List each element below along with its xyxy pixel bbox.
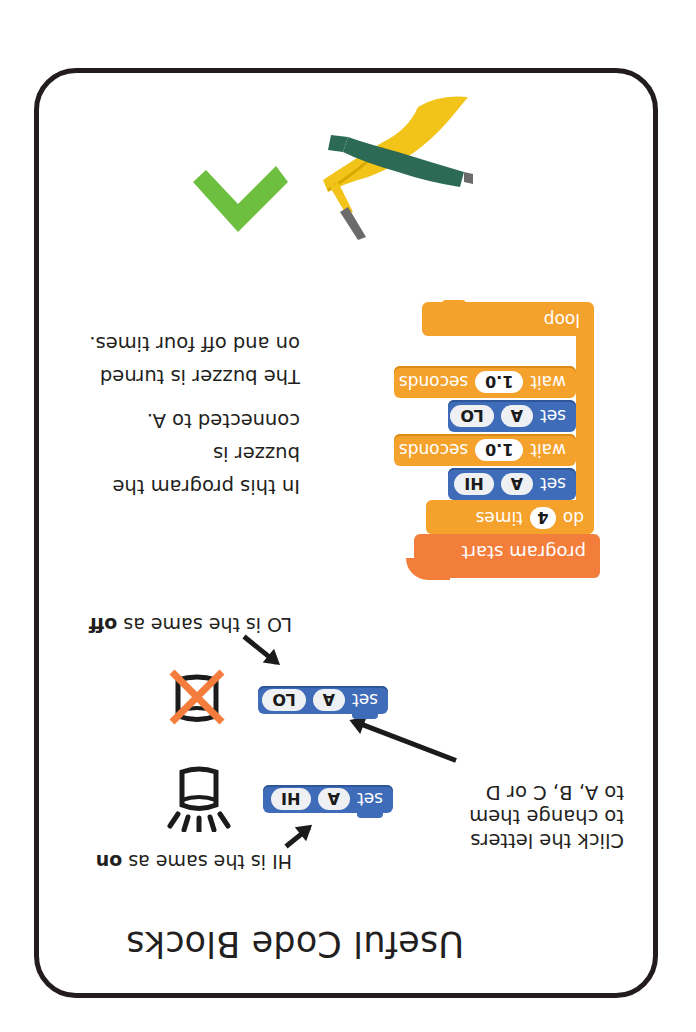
description-line-3: connected to A. [89,408,300,432]
program-step-wait-1[interactable]: wait 1.0 seconds [394,434,576,466]
pin-selector[interactable]: A [501,473,533,495]
hi-note: HI is the same as on [96,850,292,874]
block-notch [352,711,378,719]
program-stack: program start do 4 times loop set A HI w… [300,280,600,580]
instruction-line-1: Click the letters [469,828,624,852]
program-step-wait-2[interactable]: wait 1.0 seconds [394,366,576,398]
loop-label: loop [544,310,580,330]
description-line-1: In this program the [89,474,300,498]
repeat-suffix: times [476,508,523,528]
set-hi-block[interactable]: set A HI [263,785,393,813]
pin-selector[interactable]: A [313,689,345,711]
description-line-4: The buzzer is turned [89,364,300,388]
state-selector[interactable]: LO [450,405,493,427]
click-instructions: Click the letters to change them to A, B… [469,780,624,852]
loop-footer-tab [442,300,466,306]
block-notch [357,810,383,818]
set-keyword: set [352,690,378,710]
program-step-set-hi[interactable]: set A HI [448,468,576,500]
wait-value[interactable]: 1.0 [475,439,523,461]
state-selector[interactable]: HI [454,473,493,495]
hi-note-text: HI is the same as [122,851,292,873]
program-description: In this program the buzzer is connected … [89,331,300,498]
set-lo-block[interactable]: set A LO [258,686,388,714]
lo-note-emphasis: off [89,614,117,636]
pin-selector[interactable]: A [318,788,350,810]
repeat-prefix: do [563,508,584,528]
card-stage: Useful Code Blocks HI is the same as on … [0,0,696,1032]
state-selector[interactable]: LO [262,689,305,711]
description-line-5: on and off four times. [89,331,300,355]
buzzer-off-icon [166,668,228,726]
set-keyword: set [540,474,566,494]
pin-selector[interactable]: A [501,405,533,427]
wait-keyword: wait [530,372,566,392]
wait-value[interactable]: 1.0 [475,371,523,393]
crocodile-clip-illustration [188,92,478,242]
set-keyword: set [540,406,566,426]
hat-curve [406,558,450,580]
state-selector[interactable]: HI [271,788,311,810]
buzzer-on-icon [160,760,238,832]
hi-note-emphasis: on [96,851,123,873]
program-start-label: program start [462,543,586,564]
description-line-2: buzzer is [89,441,300,465]
instruction-line-2: to change them [469,804,624,828]
repeat-block[interactable]: do 4 times [426,502,594,534]
wait-unit: seconds [399,440,469,460]
instruction-line-3: to A, B, C or D [469,780,624,804]
set-keyword: set [357,789,383,809]
wait-keyword: wait [530,440,566,460]
lo-note-text: LO is the same as [117,614,292,636]
repeat-block-arm [576,330,594,508]
card-title: Useful Code Blocks [126,924,464,964]
repeat-count[interactable]: 4 [530,507,556,529]
wait-unit: seconds [399,372,469,392]
lo-note: LO is the same as off [89,613,292,637]
program-step-set-lo[interactable]: set A LO [448,400,576,432]
